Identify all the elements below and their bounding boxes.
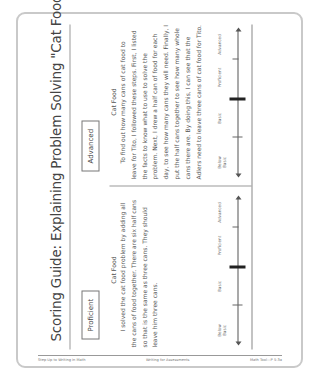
scale-label: Proficient [217,234,222,258]
footer-left: Step Up to Writing in Math [38,358,86,363]
arrow-right-icon [235,28,241,32]
rating-scale-advanced: Below Basic Basic Proficient Advanced [215,28,247,178]
rating-scale-proficient: Below Basic Basic Proficient Advanced [215,196,247,346]
scale-label: Basic [217,278,222,296]
page-title: Scoring Guide: Explaining Problem Solvin… [47,0,63,342]
scale-label: Advanced [217,33,222,57]
sample-heading: Cat Food [109,193,116,348]
sample-advanced: Advanced Cat Food To find out how many c… [77,25,203,180]
column-divider [109,186,251,187]
scale-axis [237,30,238,176]
footer-center: Writing for Assessments [146,358,190,363]
scale-tick [232,137,242,138]
level-label-box: Advanced [81,121,99,172]
arrow-right-icon [235,196,241,200]
scale-label: Basic [217,110,222,128]
score-marker [229,266,245,269]
scale-label: Proficient [217,66,222,90]
scale-label: Below Basic [217,154,226,172]
arrow-left-icon [235,342,241,346]
sample-text: I solved the cat food problem by adding … [117,193,160,348]
rotated-page: Scoring Guide: Explaining Problem Solvin… [39,25,265,350]
scale-tick [232,305,242,306]
page-footer: Step Up to Writing in Math Writing for A… [38,355,282,363]
bottom-rule [251,25,252,350]
score-marker [229,98,245,101]
level-label-box: Proficient [81,291,99,340]
scale-axis [237,198,238,344]
scale-tick [232,227,238,228]
sample-proficient: Proficient Cat Food I solved the cat foo… [77,193,160,348]
scale-tick [232,59,238,60]
scale-label: Below Basic [217,322,226,340]
footer-right: Math Tool—P 5-3a [250,358,282,363]
arrow-left-icon [235,174,241,178]
title-rule [69,25,70,350]
scale-label: Advanced [217,201,222,225]
sample-heading: Cat Food [109,25,116,180]
sample-text: To find out how many cans of cat food to… [117,25,203,180]
